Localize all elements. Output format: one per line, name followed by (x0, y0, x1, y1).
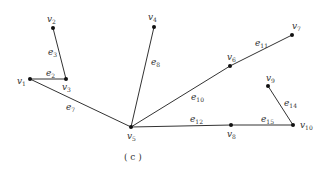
edge-label-e8: e8 (151, 57, 160, 68)
vertex-label-v2: v2 (47, 14, 56, 25)
edge-e7 (30, 79, 131, 127)
figure-caption: ( c ) (124, 152, 142, 162)
vertex-v9 (266, 84, 270, 88)
edge-label-e7: e7 (66, 102, 75, 113)
vertex-v3 (64, 77, 68, 81)
vertex-v6 (228, 64, 232, 68)
vertex-v4 (152, 25, 156, 29)
edge-label-e15: e15 (261, 114, 274, 125)
vertex-v2 (51, 26, 55, 30)
vertex-v7 (290, 33, 294, 37)
edge-label-e3: e3 (48, 47, 57, 58)
edges-group (30, 27, 293, 127)
labels-group: e2e3e7e8e10e11e12e14e15v1v2v3v4v5v6v7v8v… (17, 12, 313, 142)
vertex-label-v8: v8 (227, 129, 236, 140)
edge-label-e14: e14 (284, 98, 297, 109)
vertex-label-v6: v6 (227, 52, 236, 63)
vertex-label-v3: v3 (62, 82, 71, 93)
edge-label-e12: e12 (190, 114, 203, 125)
vertex-label-v7: v7 (292, 21, 301, 32)
edge-e8 (131, 27, 154, 127)
edge-e11 (230, 35, 292, 66)
edge-e12 (131, 125, 231, 127)
vertex-label-v5: v5 (127, 131, 136, 142)
vertex-v1 (28, 77, 32, 81)
edge-label-e2: e2 (46, 68, 55, 79)
vertex-label-v9: v9 (266, 73, 275, 84)
vertex-label-v4: v4 (148, 12, 157, 23)
edge-e10 (131, 66, 230, 127)
vertex-v8 (229, 123, 233, 127)
vertex-label-v10: v10 (300, 120, 313, 131)
edge-label-e11: e11 (255, 38, 268, 49)
edge-label-e10: e10 (191, 92, 204, 103)
graph-diagram: e2e3e7e8e10e11e12e14e15v1v2v3v4v5v6v7v8v… (0, 0, 327, 174)
vertex-label-v1: v1 (17, 76, 26, 87)
vertex-v5 (129, 125, 133, 129)
vertex-v10 (291, 123, 295, 127)
